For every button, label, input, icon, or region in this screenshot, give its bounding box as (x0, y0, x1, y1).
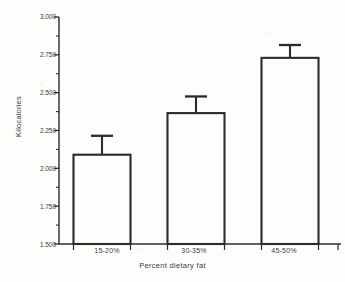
bar[interactable] (74, 155, 131, 244)
figure-canvas: Kilocalories 3.000 2.750 2.500 2.250 2.0… (0, 0, 345, 282)
bar[interactable] (168, 113, 225, 244)
bar[interactable] (262, 58, 319, 244)
bar-chart-plot (0, 0, 345, 282)
